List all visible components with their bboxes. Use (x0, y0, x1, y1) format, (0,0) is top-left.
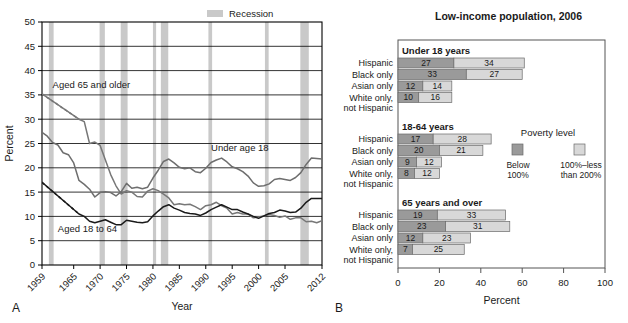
bar-value-100-to-200: 25 (434, 244, 444, 254)
bar-value-100-to-200: 12 (422, 168, 432, 178)
bar-row: White only,not Hispanic812 (343, 168, 439, 188)
bar-row-label-cont: not Hispanic (343, 179, 393, 189)
y-tick-label: 50 (24, 16, 35, 27)
series-group (42, 94, 322, 225)
bar-value-100-to-200: 28 (457, 134, 467, 144)
bar-row: White only,not Hispanic725 (343, 244, 464, 264)
y-axis: 05101520253035404550 (24, 16, 42, 270)
bar-chart-title: Low-income population, 2006 (435, 10, 582, 22)
legend-label-below-100-line1: Below (506, 160, 530, 170)
poverty-level-legend: Poverty levelBelow100%100%–lessthan 200% (506, 127, 601, 180)
bar-value-100-to-200: 34 (484, 58, 494, 68)
legend-label-100-to-200-line1: 100%–less (560, 160, 602, 170)
bar-row-label: Black only (352, 146, 394, 156)
bar-row-label-cont: not Hispanic (343, 103, 393, 113)
bar-row-label-cont: not Hispanic (343, 255, 393, 265)
recession-legend-label: Recession (229, 8, 273, 19)
x-tick-label: 2005 (268, 271, 291, 294)
series-annotations: Aged 65 and olderUnder age 18Aged 18 to … (53, 79, 269, 234)
bar-value-below-100: 9 (405, 157, 410, 167)
bar-row: Hispanic1728 (358, 134, 491, 144)
legend-label-100-to-200-line2: than 200% (561, 170, 602, 180)
line-chart-svg: 05101520253035404550Percent1959196519701… (0, 0, 330, 323)
bar-value-below-100: 20 (414, 145, 424, 155)
bar-value-100-to-200: 16 (431, 92, 441, 102)
x-tick-label: 1980 (136, 271, 159, 294)
bar-row-label: Asian only (351, 233, 393, 243)
panel-b-bar-chart: Low-income population, 2006Under 18 year… (330, 0, 628, 323)
bar-row-label: Asian only (351, 81, 393, 91)
x-tick-label: 2000 (241, 271, 264, 294)
bar-row: Asian only1223 (351, 233, 470, 243)
x-tick-label: 100 (597, 277, 613, 288)
bar-value-100-to-200: 27 (490, 69, 500, 79)
legend-swatch-100-to-200 (574, 144, 585, 155)
legend-swatch-below-100 (512, 144, 523, 155)
recession-legend: Recession (207, 8, 273, 19)
bar-value-100-to-200: 31 (473, 221, 483, 231)
y-tick-label: 10 (24, 211, 35, 222)
series-line (42, 94, 322, 223)
series-line (42, 132, 322, 197)
bar-row: Asian only1214 (351, 81, 451, 91)
bar-row-label: Hispanic (358, 210, 393, 220)
bar-row: Hispanic1933 (358, 210, 505, 220)
x-tick-label: 0 (395, 277, 400, 288)
x-axis-title: Year (171, 300, 193, 312)
panel-a-line-chart: 05101520253035404550Percent1959196519701… (0, 0, 330, 323)
series-label: Under age 18 (211, 142, 269, 153)
bar-value-below-100: 17 (411, 134, 421, 144)
x-tick-label: 1995 (215, 271, 238, 294)
bar-row-label: Asian only (351, 157, 393, 167)
y-tick-label: 20 (24, 162, 35, 173)
legend-label-below-100-line2: 100% (507, 170, 529, 180)
bar-value-below-100: 8 (404, 168, 409, 178)
bar-row-label: White only, (349, 93, 393, 103)
y-tick-label: 40 (24, 65, 35, 76)
bar-row: Asian only912 (351, 157, 441, 167)
x-axis-title: Percent (483, 294, 519, 306)
bar-row-label: Black only (352, 222, 394, 232)
bar-group-label: 65 years and over (402, 197, 483, 208)
x-tick-label: 40 (476, 277, 487, 288)
x-tick-label: 1985 (162, 271, 185, 294)
y-tick-label: 15 (24, 187, 35, 198)
bar-value-below-100: 19 (413, 210, 423, 220)
bar-value-100-to-200: 12 (424, 157, 434, 167)
bar-row: Hispanic2734 (358, 58, 524, 68)
bar-group-label: 18-64 years (402, 121, 454, 132)
x-tick-label: 2012 (305, 271, 328, 294)
x-tick-label: 1959 (25, 271, 48, 294)
bar-row-label: White only, (349, 245, 393, 255)
panel-letter-b: B (335, 301, 343, 315)
panel-letter-a: A (12, 301, 20, 315)
bar-value-100-to-200: 14 (433, 81, 443, 91)
bar-value-below-100: 7 (403, 244, 408, 254)
y-tick-label: 5 (30, 235, 35, 246)
series-label: Aged 18 to 64 (58, 223, 117, 234)
y-tick-label: 25 (24, 138, 35, 149)
y-tick-label: 0 (30, 259, 35, 270)
x-tick-label: 1975 (109, 271, 132, 294)
recession-legend-swatch (207, 10, 223, 17)
series-label: Aged 65 and older (53, 79, 131, 90)
bar-value-below-100: 23 (417, 221, 427, 231)
bar-row: Black only3327 (352, 69, 522, 79)
y-tick-label: 45 (24, 41, 35, 52)
bar-value-below-100: 12 (406, 233, 416, 243)
bar-value-below-100: 10 (404, 92, 414, 102)
bar-value-below-100: 27 (421, 58, 431, 68)
bar-value-below-100: 12 (406, 81, 416, 91)
bar-value-100-to-200: 23 (442, 233, 452, 243)
bar-value-below-100: 33 (427, 69, 437, 79)
bar-row-label: Black only (352, 70, 394, 80)
bar-row-label: White only, (349, 169, 393, 179)
x-tick-label: 20 (434, 277, 445, 288)
bar-row: Black only2021 (352, 145, 483, 155)
bar-value-100-to-200: 21 (456, 145, 466, 155)
x-tick-label: 1990 (188, 271, 211, 294)
x-tick-label: 60 (517, 277, 528, 288)
bar-row-label: Hispanic (358, 134, 393, 144)
bar-group-label: Under 18 years (402, 45, 470, 56)
y-tick-label: 30 (24, 114, 35, 125)
